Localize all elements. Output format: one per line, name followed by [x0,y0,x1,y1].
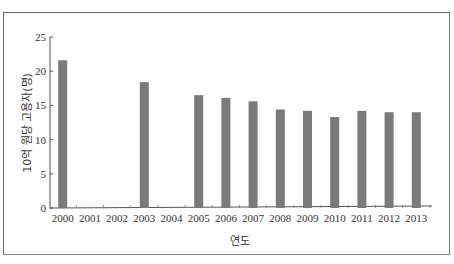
x-tick-label: 2003 [133,212,156,224]
y-axis: 0510152025 [35,31,53,214]
y-tick-label: 0 [41,202,47,214]
bar-2010 [330,117,339,208]
x-tick-label: 2005 [188,212,211,224]
x-tick-label: 2001 [79,212,101,224]
y-tick-label: 20 [35,65,47,77]
x-axis-title: 연도 [230,235,250,248]
y-axis-title: 10억 원당 고용자(명) [21,73,34,173]
y-tick-label: 10 [35,134,47,146]
x-tick-label: 2008 [269,212,292,224]
bar-2008 [276,110,285,208]
x-tick-label: 2010 [324,212,347,224]
y-tick-label: 15 [35,99,47,111]
bar-2007 [249,101,258,208]
x-tick-label: 2002 [106,212,128,224]
x-axis: 2000200120022003200420052006200720082009… [50,205,432,224]
bars [58,60,421,208]
x-tick-label: 2013 [405,212,428,224]
bar-2000 [58,60,67,208]
bar-2005 [194,95,203,208]
x-tick-label: 2012 [378,212,400,224]
bar-2006 [221,98,230,208]
x-tick-label: 2004 [161,212,184,224]
y-tick-label: 5 [41,168,47,180]
bar-2013 [412,112,421,208]
x-tick-label: 2000 [52,212,75,224]
y-tick-label: 25 [35,31,47,43]
bar-2003 [140,82,149,208]
x-tick-label: 2011 [351,212,373,224]
bar-2009 [303,111,312,208]
x-tick-label: 2009 [297,212,320,224]
bar-2012 [385,112,394,208]
bar-2011 [357,111,366,208]
x-tick-label: 2007 [242,212,265,224]
bar-chart: 0510152025 20002001200220032004200520062… [0,0,454,264]
x-tick-label: 2006 [215,212,238,224]
